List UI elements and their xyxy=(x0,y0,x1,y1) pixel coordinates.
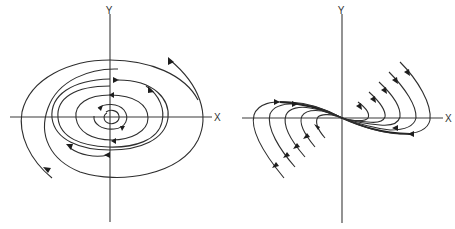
arrow-icon xyxy=(111,138,116,144)
node-phase-portrait: Y X xyxy=(242,5,452,223)
y-axis-label: Y xyxy=(106,5,113,16)
x-axis-label: X xyxy=(214,112,221,123)
arrow-icon xyxy=(303,133,310,139)
phase-portraits-figure: Y X Y X xyxy=(0,0,455,229)
arrow-icon xyxy=(168,57,174,65)
arrow-icon xyxy=(370,96,376,103)
arrow-icon xyxy=(43,167,51,173)
arrow-icon xyxy=(104,152,110,158)
trajectory xyxy=(342,82,400,125)
arrow-icon xyxy=(113,77,119,83)
y-axis-label: Y xyxy=(338,5,345,16)
trajectory xyxy=(70,148,108,156)
arrow-icon xyxy=(356,103,362,110)
x-axis-label: X xyxy=(445,113,452,124)
trajectory xyxy=(342,62,430,134)
trajectory xyxy=(45,60,203,177)
arrow-icon xyxy=(293,143,300,149)
arrow-icon xyxy=(274,99,280,105)
arrow-icon xyxy=(408,131,414,137)
arrow-icon xyxy=(120,126,125,131)
spiral-phase-portrait: Y X xyxy=(10,5,221,222)
arrow-icon xyxy=(381,87,387,94)
